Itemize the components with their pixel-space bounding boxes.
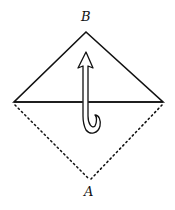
fold-diagram: B A (0, 0, 175, 210)
label-a: A (83, 184, 93, 199)
fold-arrow-icon (78, 52, 100, 133)
label-b: B (80, 9, 91, 24)
